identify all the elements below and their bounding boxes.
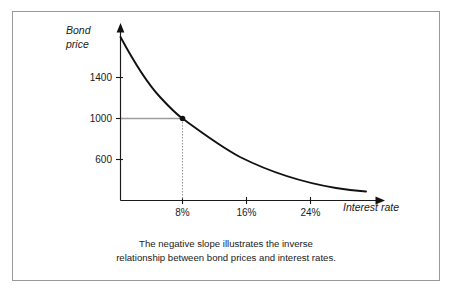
y-tick-label-600: 600 — [95, 154, 112, 165]
y-axis — [117, 23, 125, 201]
y-axis-arrow-icon — [117, 23, 125, 33]
x-tick-label-24pct: 24% — [300, 207, 320, 218]
y-axis-label-line2: price — [65, 38, 89, 50]
y-axis-label-line1: Bond — [66, 24, 92, 36]
caption-line-2: relationship between bond prices and int… — [116, 252, 336, 263]
y-tick-label-1000: 1000 — [90, 113, 113, 124]
intersection-marker — [180, 116, 186, 122]
x-axis-label: Interest rate — [343, 201, 399, 213]
chart-canvas: Bond price Interest rate 1400 1000 600 8… — [0, 0, 453, 292]
bond-price-curve — [121, 37, 367, 192]
y-tick-label-1400: 1400 — [90, 72, 113, 83]
x-tick-label-8pct: 8% — [175, 207, 190, 218]
caption-line-1: The negative slope illustrates the inver… — [139, 238, 313, 249]
bond-price-figure: Bond price Interest rate 1400 1000 600 8… — [0, 0, 453, 292]
x-tick-label-16pct: 16% — [236, 207, 256, 218]
